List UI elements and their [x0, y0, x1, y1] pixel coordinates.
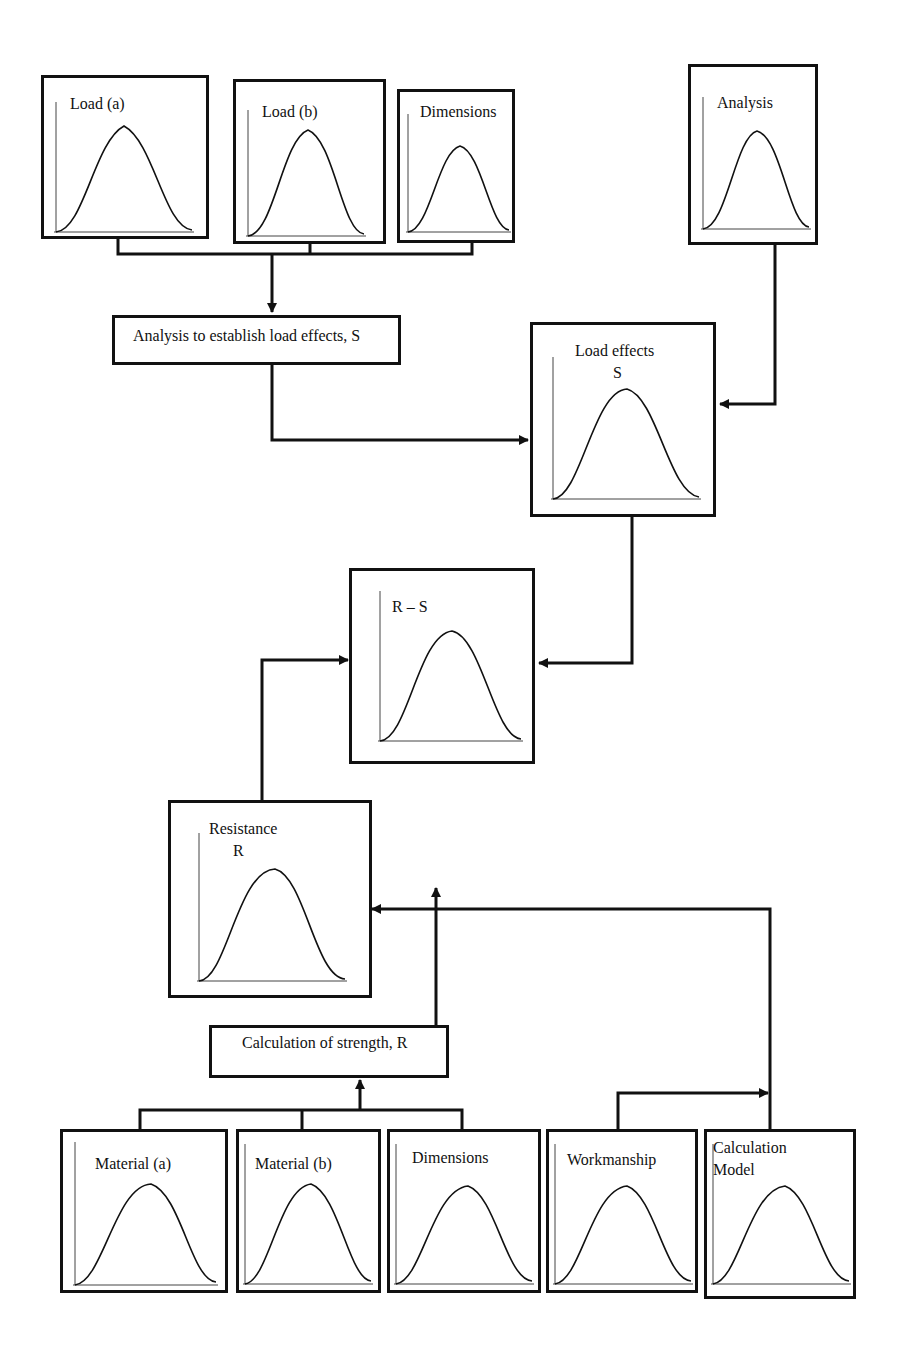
- strength-calculation-process-box: Calculation of strength, R: [209, 1025, 449, 1078]
- bell-curve-icon: [378, 591, 523, 741]
- calculation-model-distribution-box: Calculation Model: [704, 1129, 856, 1299]
- resistance-dimensions-distribution-box: Dimensions: [387, 1129, 541, 1293]
- load-b-distribution-box: Load (b): [233, 79, 386, 244]
- bell-curve-icon: [73, 1142, 218, 1282]
- load-effects-box: Load effects S: [530, 322, 716, 517]
- bell-curve-icon: [406, 114, 511, 229]
- load-a-distribution-box: Load (a): [41, 75, 209, 239]
- r-minus-s-distribution-box: R – S: [349, 568, 535, 764]
- strength-calculation-label: Calculation of strength, R: [242, 1034, 407, 1052]
- reliability-flow-diagram: Load (a) Load (b) Dimensions Analysis: [0, 0, 910, 1363]
- bell-curve-icon: [553, 1144, 693, 1284]
- workmanship-distribution-box: Workmanship: [546, 1129, 698, 1293]
- bell-curve-icon: [246, 110, 366, 230]
- bell-curve-icon: [54, 102, 194, 222]
- bell-curve-icon: [243, 1144, 373, 1284]
- bell-curve-icon: [197, 833, 347, 983]
- bell-curve-icon: [711, 1144, 851, 1284]
- bell-curve-icon: [701, 97, 811, 227]
- load-dimensions-distribution-box: Dimensions: [397, 89, 515, 243]
- load-analysis-label: Analysis to establish load effects, S: [133, 327, 360, 345]
- resistance-distribution-box: Resistance R: [168, 800, 372, 998]
- bell-curve-icon: [551, 357, 701, 497]
- analysis-distribution-box: Analysis: [688, 64, 818, 245]
- material-a-distribution-box: Material (a): [60, 1129, 228, 1293]
- load-analysis-process-box: Analysis to establish load effects, S: [112, 315, 401, 365]
- material-b-distribution-box: Material (b): [236, 1129, 381, 1293]
- bell-curve-icon: [394, 1144, 534, 1284]
